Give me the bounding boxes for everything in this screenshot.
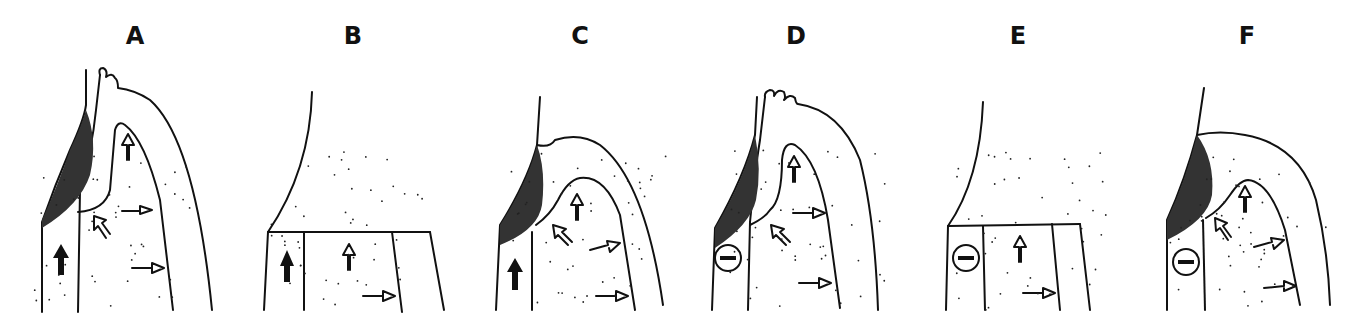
arrow-diagonal-icon xyxy=(94,216,110,238)
arrow-right-icon xyxy=(590,241,620,252)
panel-d: D xyxy=(700,0,920,327)
panel-f: F xyxy=(1140,0,1362,327)
panel-d-drawing xyxy=(700,0,920,327)
panel-c: C xyxy=(480,0,700,327)
arrow-up-icon xyxy=(1239,186,1251,212)
arrow-up-icon xyxy=(1014,236,1026,262)
arrow-up-filled-icon xyxy=(280,250,294,282)
arrow-up-filled-icon xyxy=(507,258,523,290)
arrow-up-icon xyxy=(122,134,134,160)
panel-a-drawing xyxy=(0,0,240,327)
arrow-right-icon xyxy=(1264,281,1296,291)
enamel-mass xyxy=(1167,135,1212,240)
arrow-right-icon xyxy=(596,291,628,301)
arrow-right-icon xyxy=(793,208,825,218)
arrow-right-icon xyxy=(132,263,164,273)
panel-b-drawing xyxy=(240,0,480,327)
arrow-right-icon xyxy=(122,206,152,214)
panel-b: B xyxy=(240,0,480,327)
arrow-diagonal-icon xyxy=(1215,218,1231,240)
arrow-right-icon xyxy=(1023,288,1055,298)
arrow-right-icon xyxy=(1254,238,1284,249)
arrow-diagonal-icon xyxy=(553,225,572,245)
panel-a: A xyxy=(0,0,240,327)
panel-e-drawing xyxy=(920,0,1140,327)
arrow-up-filled-icon xyxy=(53,244,69,275)
arrow-right-icon xyxy=(799,278,831,288)
panel-f-drawing xyxy=(1140,0,1362,327)
panel-c-drawing xyxy=(480,0,700,327)
arrow-up-icon xyxy=(788,156,800,182)
enamel-mass xyxy=(500,145,543,245)
panel-e: E xyxy=(920,0,1140,327)
arrow-up-icon xyxy=(571,194,583,220)
arrow-diagonal-icon xyxy=(771,225,790,245)
arrow-right-icon xyxy=(363,291,395,301)
